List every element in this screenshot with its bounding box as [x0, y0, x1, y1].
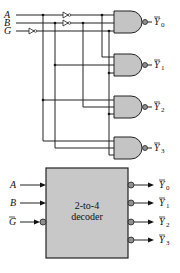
- svg-text:Y: Y: [159, 179, 166, 190]
- decoder-title-line2: decoder: [71, 211, 103, 222]
- gate-input-wires: [43, 57, 114, 155]
- svg-text:G: G: [9, 216, 16, 227]
- svg-text:Y: Y: [154, 101, 161, 112]
- decoder-diagram: A B G: [0, 0, 180, 273]
- input-label-g: G: [4, 25, 11, 36]
- nand-gate-1: [114, 54, 152, 76]
- svg-text:1: 1: [166, 202, 170, 210]
- svg-text:2: 2: [161, 106, 165, 114]
- output-label-y3: Y 3: [154, 142, 165, 155]
- output-label-y0: Y 0: [154, 16, 165, 29]
- nand-gate-3: [114, 137, 152, 159]
- inverter-g-icon: [29, 28, 37, 34]
- output-label-y2: Y 2: [154, 101, 165, 114]
- block-input-g: G: [9, 216, 46, 227]
- svg-text:0: 0: [166, 184, 170, 192]
- block-output-y1: Y 1: [128, 197, 170, 210]
- block-input-b: B: [10, 197, 46, 208]
- svg-text:Y: Y: [159, 216, 166, 227]
- svg-text:Y: Y: [159, 234, 166, 245]
- svg-text:1: 1: [161, 64, 165, 72]
- block-output-y0: Y 0: [128, 179, 170, 192]
- block-output-y2: Y 2: [128, 216, 170, 229]
- inverter-a-icon: [63, 12, 71, 18]
- block-input-a: A: [9, 179, 46, 190]
- nand-gate-2: [114, 96, 152, 118]
- svg-text:A: A: [9, 179, 17, 190]
- svg-text:3: 3: [161, 147, 165, 155]
- svg-text:Y: Y: [154, 59, 161, 70]
- output-label-y1: Y 1: [154, 59, 165, 72]
- decoder-title-line1: 2-to-4: [75, 200, 99, 211]
- block-output-y3: Y 3: [128, 234, 170, 247]
- svg-text:0: 0: [161, 21, 165, 29]
- svg-text:Y: Y: [154, 16, 161, 27]
- svg-text:Y: Y: [154, 142, 161, 153]
- svg-text:B: B: [10, 197, 16, 208]
- nand-gate-0: [114, 11, 152, 33]
- svg-text:Y: Y: [159, 197, 166, 208]
- svg-text:2: 2: [166, 221, 170, 229]
- inverter-b-icon: [63, 20, 71, 26]
- vertical-wires: [43, 15, 109, 155]
- svg-text:3: 3: [166, 239, 170, 247]
